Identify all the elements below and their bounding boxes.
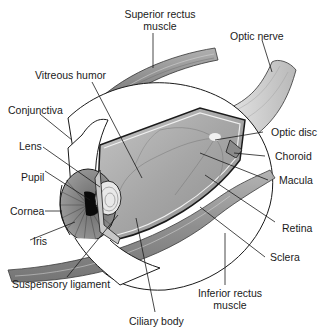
label-iris: Iris: [33, 235, 47, 247]
label-suspensory-ligament: Suspensory ligament: [12, 278, 110, 290]
label-sclera: Sclera: [270, 251, 300, 263]
label-optic-disc: Optic disc: [271, 126, 317, 138]
label-ciliary-body: Ciliary body: [129, 315, 184, 327]
label-pupil: Pupil: [21, 171, 44, 183]
label-inferior-rectus-line2: muscle: [190, 299, 270, 311]
label-conjunctiva: Conjunctiva: [8, 104, 63, 116]
label-lens: Lens: [19, 140, 42, 152]
eye-diagram: Superior rectus muscle Optic nerve Vitre…: [0, 0, 320, 335]
label-inferior-rectus-muscle: Inferior rectus muscle: [190, 287, 270, 311]
label-vitreous-humor: Vitreous humor: [35, 69, 106, 81]
label-optic-nerve: Optic nerve: [230, 30, 284, 42]
label-retina: Retina: [282, 222, 312, 234]
label-cornea: Cornea: [10, 205, 44, 217]
label-macula: Macula: [279, 174, 313, 186]
label-superior-rectus-line1: Superior rectus: [118, 8, 202, 20]
label-superior-rectus-muscle: Superior rectus muscle: [118, 8, 202, 32]
label-inferior-rectus-line1: Inferior rectus: [190, 287, 270, 299]
label-choroid: Choroid: [275, 150, 312, 162]
label-superior-rectus-line2: muscle: [118, 20, 202, 32]
